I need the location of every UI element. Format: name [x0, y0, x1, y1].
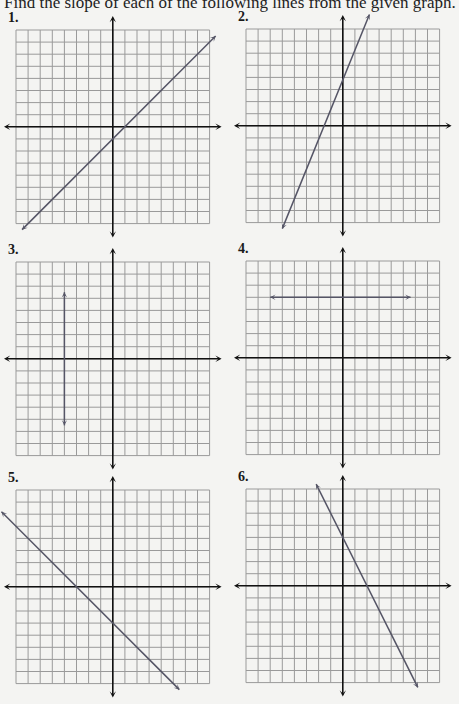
coordinate-grid	[246, 261, 440, 455]
problem-number: 2.	[238, 9, 249, 25]
graph-panel-4: 4.	[246, 261, 440, 455]
problem-number: 1.	[8, 10, 19, 26]
coordinate-grid	[246, 29, 440, 223]
coordinate-grid	[16, 262, 210, 456]
coordinate-grid	[16, 490, 210, 684]
plotted-line	[282, 14, 369, 228]
instructions-text: Find the slope of each of the following …	[4, 0, 456, 13]
problem-number: 3.	[8, 242, 19, 258]
coordinate-grid	[16, 30, 210, 224]
graph-panel-2: 2.	[246, 29, 440, 223]
problem-number: 5.	[8, 470, 19, 486]
graph-panel-3: 3.	[16, 262, 210, 456]
graph-panel-5: 5.	[16, 490, 210, 684]
problem-number: 6.	[238, 469, 249, 485]
coordinate-grid	[246, 489, 440, 683]
plotted-line	[22, 36, 216, 230]
problem-number: 4.	[238, 241, 249, 257]
graph-panel-1: 1.	[16, 30, 210, 224]
graph-panel-6: 6.	[246, 489, 440, 683]
